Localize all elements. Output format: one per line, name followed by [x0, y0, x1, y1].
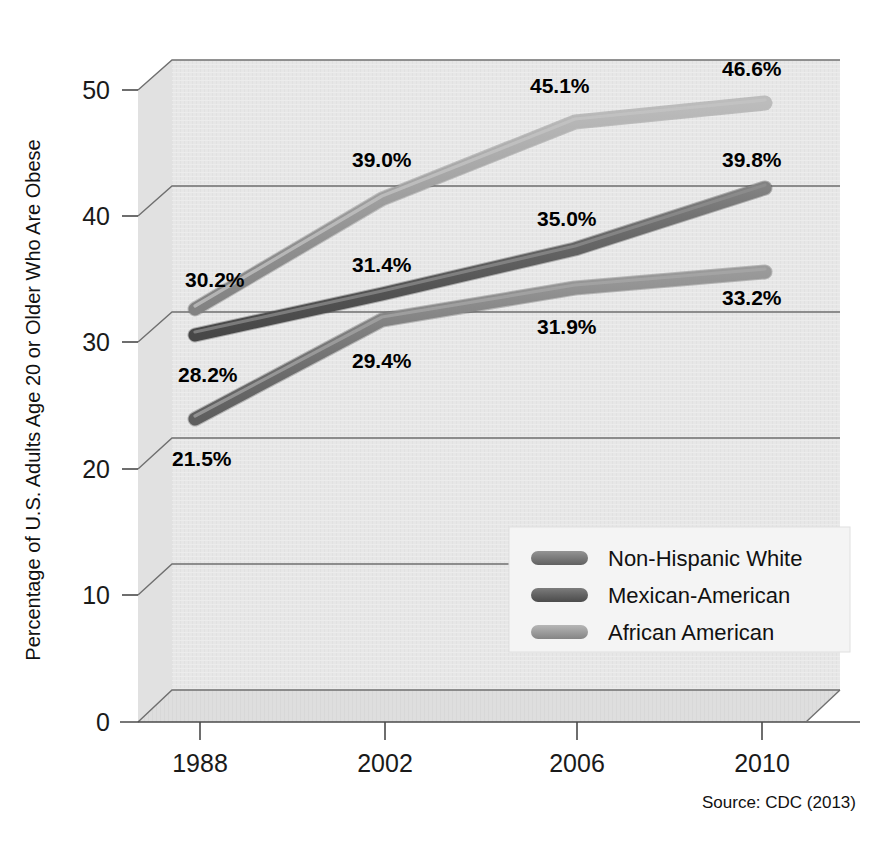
- data-label-mexican-american-2002: 31.4%: [352, 253, 412, 276]
- data-label-non-hispanic-white-2002: 29.4%: [352, 349, 412, 372]
- legend-label-mexican-american: Mexican-American: [608, 583, 790, 608]
- x-tick-label-1988: 1988: [172, 749, 228, 777]
- x-tick-label-2002: 2002: [357, 749, 413, 777]
- data-label-african-american-2010: 46.6%: [722, 57, 782, 80]
- legend-swatch-mexican-american: [531, 588, 588, 602]
- y-tick-label-20: 20: [82, 455, 110, 483]
- y-tick-label-30: 30: [82, 328, 110, 356]
- data-label-mexican-american-1988: 28.2%: [178, 363, 238, 386]
- obesity-trend-line-chart: 50 40 30 20 10 0 Percentage of U.S. Adul…: [0, 0, 883, 864]
- y-tick-label-40: 40: [82, 202, 110, 230]
- source-note: Source: CDC (2013): [702, 793, 856, 812]
- data-label-non-hispanic-white-2010: 33.2%: [722, 286, 782, 309]
- legend-swatch-african-american: [531, 625, 588, 639]
- data-label-african-american-2002: 39.0%: [352, 148, 412, 171]
- data-label-mexican-american-2010: 39.8%: [722, 148, 782, 171]
- data-label-african-american-2006: 45.1%: [530, 74, 590, 97]
- y-tick-label-0: 0: [96, 708, 110, 736]
- plot-floor: [138, 690, 840, 722]
- y-tick-label-10: 10: [82, 581, 110, 609]
- legend-swatch-non-hispanic-white: [531, 551, 588, 565]
- y-axis-title: Percentage of U.S. Adults Age 20 or Olde…: [22, 139, 44, 660]
- chart-container: 50 40 30 20 10 0 Percentage of U.S. Adul…: [0, 0, 883, 864]
- legend[interactable]: Non-Hispanic White Mexican-American Afri…: [509, 527, 850, 652]
- data-label-african-american-1988: 30.2%: [185, 268, 245, 291]
- plot-left-wall: [138, 60, 172, 722]
- x-tick-label-2006: 2006: [549, 749, 605, 777]
- legend-label-non-hispanic-white: Non-Hispanic White: [608, 546, 802, 571]
- data-label-non-hispanic-white-1988: 21.5%: [172, 447, 232, 470]
- y-tick-label-50: 50: [82, 76, 110, 104]
- data-label-mexican-american-2006: 35.0%: [537, 207, 597, 230]
- legend-label-african-american: African American: [608, 620, 774, 645]
- x-tick-label-2010: 2010: [734, 749, 790, 777]
- data-label-non-hispanic-white-2006: 31.9%: [537, 315, 597, 338]
